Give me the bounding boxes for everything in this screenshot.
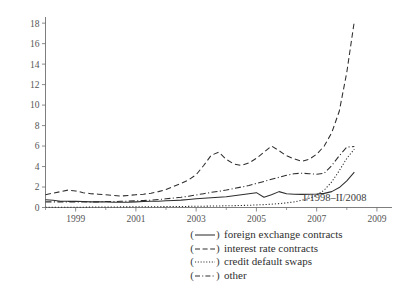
y-tick-label: 4 bbox=[35, 162, 40, 172]
legend-line-sample-solid: () bbox=[186, 228, 224, 242]
y-axis-tick-labels: 024681012141618 bbox=[30, 19, 40, 213]
legend-item[interactable]: ()other bbox=[186, 269, 396, 283]
x-axis: 199920012003200520072009 bbox=[46, 208, 393, 225]
y-tick-label: 18 bbox=[30, 19, 40, 29]
x-tick-label: 1999 bbox=[66, 214, 85, 224]
y-tick-label: 10 bbox=[30, 100, 40, 110]
legend-item-label: interest rate contracts bbox=[224, 242, 318, 256]
x-tick-label: 2005 bbox=[247, 214, 266, 224]
y-tick-label: 2 bbox=[35, 182, 40, 192]
data-series-group bbox=[46, 21, 355, 207]
legend-item[interactable]: ()interest rate contracts bbox=[186, 242, 396, 256]
y-axis-ticks bbox=[42, 23, 46, 207]
x-tick-label: 2007 bbox=[307, 214, 326, 224]
legend-item[interactable]: ()credit default swaps bbox=[186, 255, 396, 269]
date-range-annotation: I/1998–II/2008 bbox=[303, 192, 367, 203]
legend-item[interactable]: ()foreign exchange contracts bbox=[186, 228, 396, 242]
y-tick-label: 8 bbox=[35, 121, 40, 131]
legend-item-label: foreign exchange contracts bbox=[224, 228, 343, 242]
legend-line-sample-dashdot: () bbox=[186, 269, 224, 283]
chart-legend: ()foreign exchange contracts()interest r… bbox=[186, 228, 396, 282]
x-tick-label: 2003 bbox=[187, 214, 206, 224]
legend-line-sample-dotted: () bbox=[186, 255, 224, 269]
legend-item-label: credit default swaps bbox=[224, 255, 312, 269]
y-axis: 024681012141618 bbox=[30, 17, 46, 213]
x-tick-label: 2001 bbox=[126, 214, 145, 224]
x-axis-tick-labels: 199920012003200520072009 bbox=[66, 214, 387, 224]
y-tick-label: 6 bbox=[35, 141, 40, 151]
y-tick-label: 0 bbox=[35, 203, 40, 213]
legend-line-sample-dashed: () bbox=[186, 242, 224, 256]
x-tick-label: 2009 bbox=[367, 214, 386, 224]
y-tick-label: 12 bbox=[30, 80, 40, 90]
chart-figure: 024681012141618 199920012003200520072009… bbox=[0, 0, 399, 291]
series-line-interest-rate-contracts bbox=[46, 21, 355, 196]
y-tick-label: 16 bbox=[30, 39, 40, 49]
x-axis-ticks bbox=[46, 208, 377, 212]
y-tick-label: 14 bbox=[30, 60, 40, 70]
legend-item-label: other bbox=[224, 269, 247, 283]
